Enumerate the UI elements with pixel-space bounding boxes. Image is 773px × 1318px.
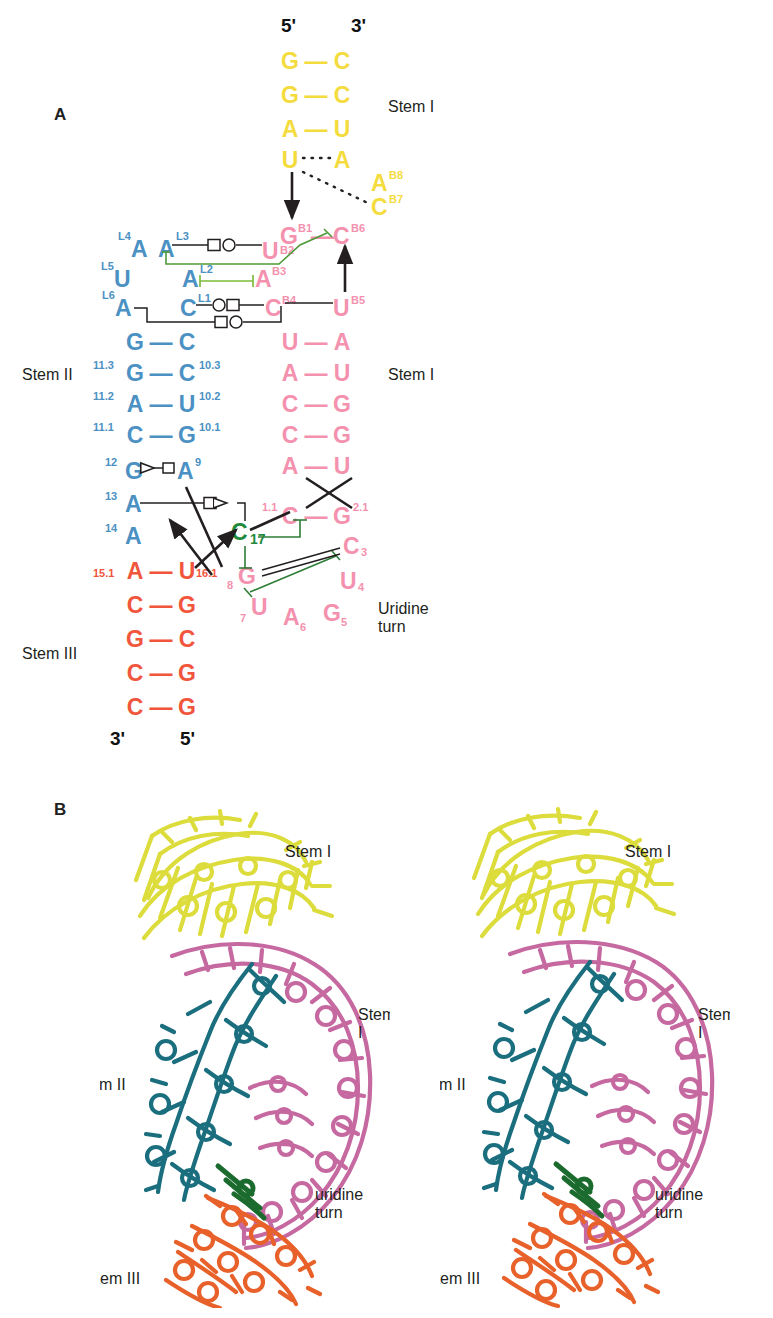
nt-C-3: C [343, 535, 360, 558]
bond: — [150, 696, 173, 719]
nt-right: U [332, 118, 352, 141]
nt-right: C [177, 331, 197, 354]
nt-left: C [125, 662, 145, 685]
nt-right: G [177, 594, 197, 617]
num-10-2: 10.2 [199, 391, 220, 402]
terminus-3prime-top: 3' [351, 15, 366, 37]
nt-left: G [125, 331, 145, 354]
num-16-1: 16.1 [196, 568, 217, 579]
label-stem-i-top: Stem I [285, 843, 331, 861]
num-15-1: 15.1 [93, 568, 114, 579]
num-11-3: 11.3 [93, 360, 114, 371]
label-stem-i-right: Stem I [358, 1006, 390, 1042]
num-L2: L2 [200, 264, 213, 275]
bond: — [150, 424, 173, 447]
num-bulge-B7: B7 [389, 194, 403, 205]
bond: — [150, 560, 173, 583]
bond: — [150, 594, 173, 617]
bp-stemIII-2: C — G [125, 594, 197, 617]
num-B6: B6 [351, 223, 365, 234]
panel-a-letter: A [54, 105, 66, 125]
num-7: 7 [240, 613, 246, 624]
nt-left: G [280, 84, 300, 107]
nt-right: G [177, 662, 197, 685]
nt-G-5: G [323, 602, 341, 625]
bp-stemI-right-4: C — G [280, 424, 352, 447]
nt-right: U [177, 393, 197, 416]
bond: — [305, 455, 328, 478]
num-L3: L3 [176, 231, 189, 242]
bond: — [305, 331, 328, 354]
nt-left: C [125, 424, 145, 447]
nt-U-B5: U [333, 297, 350, 320]
nt-right: C [177, 362, 197, 385]
label-stem-i-top: Stem I [625, 843, 671, 861]
num-6: 6 [300, 622, 306, 633]
nt-left: G [125, 362, 145, 385]
num-10-3: 10.3 [199, 360, 220, 371]
terminus-5prime-bottom: 5' [180, 728, 195, 750]
stereo-right-structure [440, 788, 730, 1308]
bond: — [305, 50, 328, 73]
num-bulge-B8: B8 [389, 170, 403, 181]
nt-stemI-top-U: U [280, 149, 300, 172]
nt-right: G [177, 424, 197, 447]
num-B1: B1 [298, 223, 312, 234]
bp-stemI-closing: C — G [280, 505, 352, 528]
num-B4: B4 [282, 295, 296, 306]
nt-right: U [177, 560, 197, 583]
num-5: 5 [341, 617, 347, 628]
num-B2: B2 [280, 245, 294, 256]
bp-stemIII-4: C — G [125, 662, 197, 685]
bond: — [305, 505, 328, 528]
label-stem-ii: Stem II [440, 1076, 466, 1094]
num-4: 4 [358, 582, 364, 593]
nt-A-6: A [283, 606, 300, 629]
bp-stemII-2: G — C [125, 362, 197, 385]
num-14: 14 [105, 523, 117, 534]
label-stem-i-right: Stem I [388, 366, 434, 384]
nt-left: C [280, 505, 300, 528]
nt-left: G [125, 628, 145, 651]
nt-right: C [332, 84, 352, 107]
nt-bulge-C-B7: C [371, 196, 388, 219]
label-stem-iii: Stem III [100, 1270, 140, 1288]
nt-left: G [280, 50, 300, 73]
num-11-1: 11.1 [93, 422, 114, 433]
bp-stemI-right-1: U — A [280, 331, 352, 354]
nt-U-4: U [340, 570, 357, 593]
bond: — [150, 628, 173, 651]
num-L6: L6 [102, 290, 115, 301]
bond: — [150, 393, 173, 416]
label-uridine-turn: Uridine turn [378, 600, 429, 636]
bond: — [150, 662, 173, 685]
nt-A-9: A [177, 460, 194, 483]
num-L4: L4 [118, 231, 131, 242]
panel-b-letter: B [54, 800, 66, 820]
bp-stemI-top-3: A — U [280, 118, 352, 141]
bp-stemII-4: C — G [125, 424, 197, 447]
bond: — [305, 393, 328, 416]
label-stem-i-right: Stem I [698, 1006, 730, 1042]
bp-stemI-right-3: C — G [280, 393, 352, 416]
bond: — [305, 84, 328, 107]
nt-G-12: G [125, 460, 143, 483]
nt-U-L5: U [114, 268, 131, 291]
nt-A-B3: A [255, 268, 272, 291]
num-1-1: 1.1 [262, 502, 277, 513]
num-L5: L5 [101, 261, 114, 272]
num-12: 12 [105, 457, 117, 468]
num-2-1: 2.1 [353, 502, 368, 513]
nt-C-L1: C [180, 297, 197, 320]
nt-left: C [125, 696, 145, 719]
nt-right: U [332, 362, 352, 385]
nt-right: C [177, 628, 197, 651]
nt-right: G [332, 424, 352, 447]
label-stem-iii: Stem III [22, 645, 77, 663]
stereo-view-right: Stem I Stem I Stem II uridine turn Stem … [440, 788, 730, 1308]
bp-stemI-right-5: A — U [280, 455, 352, 478]
nt-stemI-top-A: A [332, 149, 352, 172]
label-stem-ii: Stem II [100, 1076, 126, 1094]
nt-A-L2: A [182, 268, 199, 291]
num-9: 9 [195, 457, 201, 468]
